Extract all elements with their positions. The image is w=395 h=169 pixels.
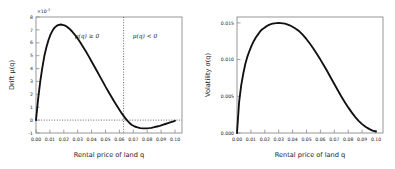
volatility-xtick-8: 0.08 (343, 137, 353, 142)
drift-exponent-base: ×10 (37, 9, 47, 14)
drift-x-ticklabels: 0.00 0.01 0.02 0.03 0.04 0.05 0.06 0.07 … (31, 137, 180, 142)
drift-xtick-2: 0.02 (59, 137, 69, 142)
drift-ytick-2: 1 (30, 105, 33, 110)
drift-xtick-0: 0.00 (31, 137, 41, 142)
drift-ytick-6: 5 (30, 53, 33, 58)
drift-x-ticks (36, 130, 175, 133)
drift-ytick-9: 8 (30, 15, 33, 20)
volatility-xtick-1: 0.01 (246, 137, 256, 142)
drift-axes-frame (36, 17, 182, 133)
volatility-xtick-9: 0.09 (357, 137, 367, 142)
drift-ytick-1: 0 (30, 118, 33, 123)
volatility-x-ticklabels: 0.00 0.01 0.02 0.03 0.04 0.05 0.06 0.07 … (232, 137, 381, 142)
drift-ytick-4: 3 (30, 79, 33, 84)
volatility-xtick-0: 0.00 (232, 137, 242, 142)
drift-y-ticklabels: -1 0 1 2 3 4 5 6 7 8 (28, 15, 33, 136)
volatility-xtick-5: 0.05 (301, 137, 311, 142)
drift-exponent-power: -3 (47, 8, 50, 12)
drift-xtick-4: 0.04 (86, 137, 96, 142)
drift-ytick-8: 7 (30, 28, 33, 33)
volatility-xtick-6: 0.06 (315, 137, 325, 142)
drift-xtick-1: 0.01 (45, 137, 55, 142)
volatility-ytick-0: 0.000 (221, 131, 234, 136)
volatility-xtick-7: 0.07 (329, 137, 339, 142)
volatility-xtick-2: 0.02 (260, 137, 270, 142)
drift-xtick-7: 0.07 (128, 137, 138, 142)
volatility-y-ticklabels: 0.000 0.005 0.010 0.015 (221, 21, 234, 136)
figure-container: ×10-3 -1 0 1 2 3 4 (0, 0, 395, 169)
drift-xaxis-label: Rental price of land q (74, 151, 145, 159)
drift-xtick-5: 0.05 (100, 137, 110, 142)
volatility-xaxis-label: Rental price of land q (275, 151, 346, 159)
volatility-ytick-2: 0.010 (221, 57, 234, 62)
volatility-xtick-4: 0.04 (287, 137, 297, 142)
drift-xtick-8: 0.08 (142, 137, 152, 142)
drift-xtick-6: 0.06 (114, 137, 124, 142)
drift-exponent-label: ×10-3 (37, 8, 50, 14)
volatility-panel: 0.000 0.005 0.010 0.015 0.00 (197, 0, 395, 169)
drift-annotation-negative: μ(q) < 0 (133, 33, 158, 40)
drift-ytick-7: 6 (30, 40, 33, 45)
volatility-x-ticks (237, 130, 376, 133)
drift-yaxis-label: Drift μ(q) (8, 60, 16, 90)
volatility-ytick-3: 0.015 (221, 21, 234, 26)
volatility-xtick-3: 0.03 (274, 137, 284, 142)
drift-ytick-3: 2 (30, 92, 33, 97)
drift-xtick-10: 0.10 (170, 137, 180, 142)
drift-panel: ×10-3 -1 0 1 2 3 4 (0, 0, 197, 169)
drift-xtick-9: 0.09 (156, 137, 166, 142)
drift-ytick-0: -1 (28, 131, 33, 136)
drift-plot-svg: ×10-3 -1 0 1 2 3 4 (0, 0, 197, 169)
volatility-plot-svg: 0.000 0.005 0.010 0.015 0.00 (197, 0, 395, 169)
drift-curve (36, 25, 175, 129)
volatility-ytick-1: 0.005 (221, 94, 234, 99)
volatility-xtick-10: 0.10 (371, 137, 381, 142)
drift-ytick-5: 4 (30, 66, 33, 71)
volatility-yaxis-label: Volatility σ(q) (204, 53, 212, 97)
drift-xtick-3: 0.03 (73, 137, 83, 142)
volatility-curve (237, 23, 376, 133)
